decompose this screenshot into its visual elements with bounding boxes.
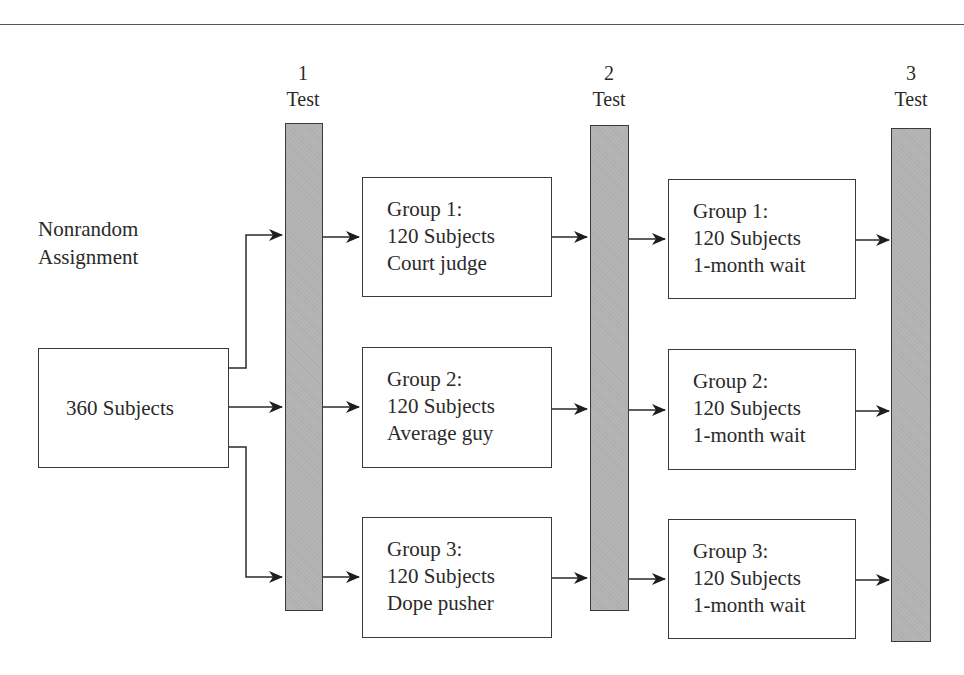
wait-group-1-box: Group 1: 120 Subjects 1-month wait — [668, 179, 856, 299]
test-1-number: 1 — [283, 62, 323, 85]
treatment-group-1-condition: Court judge — [387, 250, 495, 277]
test-1-label: Test — [273, 88, 333, 111]
wait-group-2-box: Group 2: 120 Subjects 1-month wait — [668, 349, 856, 470]
test-3-bar — [891, 128, 931, 642]
test-2-bar — [590, 125, 629, 611]
wait-group-1-text: Group 1: 120 Subjects 1-month wait — [693, 198, 806, 279]
treatment-group-3-count: 120 Subjects — [387, 563, 495, 590]
assignment-label: Nonrandom Assignment — [38, 215, 138, 271]
wait-group-2-condition: 1-month wait — [693, 422, 806, 449]
treatment-group-3-text: Group 3: 120 Subjects Dope pusher — [387, 536, 495, 617]
treatment-group-2-name: Group 2: — [387, 366, 495, 393]
test-3-label: Test — [881, 88, 941, 111]
treatment-group-3-box: Group 3: 120 Subjects Dope pusher — [362, 517, 552, 638]
treatment-group-1-text: Group 1: 120 Subjects Court judge — [387, 196, 495, 277]
wait-group-3-count: 120 Subjects — [693, 565, 806, 592]
wait-group-1-count: 120 Subjects — [693, 225, 806, 252]
wait-group-2-count: 120 Subjects — [693, 395, 806, 422]
wait-group-3-condition: 1-month wait — [693, 592, 806, 619]
wait-group-1-name: Group 1: — [693, 198, 806, 225]
source-subjects-box: 360 Subjects — [38, 348, 229, 468]
treatment-group-2-count: 120 Subjects — [387, 393, 495, 420]
wait-group-3-name: Group 3: — [693, 538, 806, 565]
treatment-group-1-count: 120 Subjects — [387, 223, 495, 250]
assignment-label-line1: Nonrandom — [38, 215, 138, 243]
test-2-label: Test — [579, 88, 639, 111]
treatment-group-2-text: Group 2: 120 Subjects Average guy — [387, 366, 495, 447]
treatment-group-1-name: Group 1: — [387, 196, 495, 223]
wait-group-1-condition: 1-month wait — [693, 252, 806, 279]
wait-group-2-name: Group 2: — [693, 368, 806, 395]
treatment-group-3-condition: Dope pusher — [387, 590, 495, 617]
wait-group-2-text: Group 2: 120 Subjects 1-month wait — [693, 368, 806, 449]
treatment-group-2-condition: Average guy — [387, 420, 495, 447]
test-2-number: 2 — [589, 62, 629, 85]
treatment-group-2-box: Group 2: 120 Subjects Average guy — [362, 347, 552, 468]
treatment-group-1-box: Group 1: 120 Subjects Court judge — [362, 177, 552, 297]
wait-group-3-box: Group 3: 120 Subjects 1-month wait — [668, 519, 856, 639]
wait-group-3-text: Group 3: 120 Subjects 1-month wait — [693, 538, 806, 619]
assignment-label-line2: Assignment — [38, 243, 138, 271]
test-1-bar — [285, 123, 323, 611]
test-3-number: 3 — [891, 62, 931, 85]
source-subjects-label: 360 Subjects — [66, 395, 174, 422]
treatment-group-3-name: Group 3: — [387, 536, 495, 563]
